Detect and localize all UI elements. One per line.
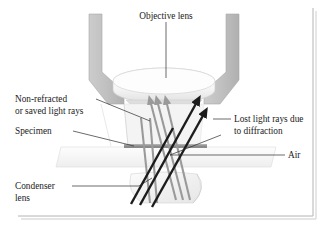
objective-lens-top-face (113, 68, 215, 94)
label-condenser-line2: lens (15, 193, 30, 203)
label-non-refracted-line2: or saved light rays (15, 106, 84, 116)
leader-specimen (73, 131, 134, 146)
objective-lens-mount (126, 100, 202, 104)
figure-canvas: Objective lens Non-refracted or saved li… (0, 0, 328, 229)
microscope-diagram: Objective lens Non-refracted or saved li… (0, 0, 328, 229)
objective-lens (113, 68, 215, 104)
label-specimen: Specimen (15, 126, 52, 136)
label-condenser-line1: Condenser (15, 181, 56, 191)
label-lost-light-line1: Lost light rays due (234, 114, 303, 124)
label-air: Air (288, 150, 301, 160)
label-lost-light-line2: to diffraction (234, 126, 283, 136)
label-non-refracted-line1: Non-refracted (15, 94, 67, 104)
label-objective-lens: Objective lens (139, 11, 193, 21)
